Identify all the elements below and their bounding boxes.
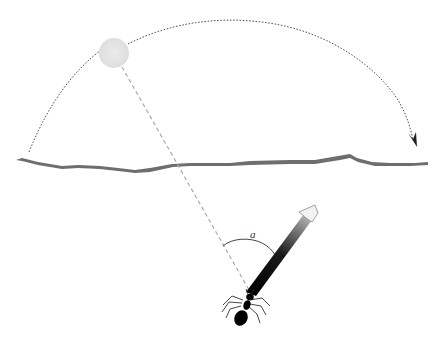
ant-icon xyxy=(222,289,270,328)
sun-path-arrowhead-icon xyxy=(408,132,417,147)
heading-arrow-shaft xyxy=(246,214,312,296)
horizon-line xyxy=(16,154,428,173)
ant-abdomen xyxy=(232,308,251,328)
angle-label: a xyxy=(250,228,256,240)
heading-arrow xyxy=(246,205,318,296)
angle-arc xyxy=(223,239,276,256)
sun-path xyxy=(29,20,417,152)
sun-ray-line xyxy=(122,67,249,290)
ant-head xyxy=(246,294,254,300)
ant-thorax xyxy=(242,299,252,311)
sun-path-arc xyxy=(29,20,413,152)
sun-icon xyxy=(99,38,129,68)
sun-compass-diagram: a xyxy=(0,0,443,339)
